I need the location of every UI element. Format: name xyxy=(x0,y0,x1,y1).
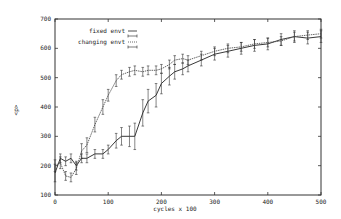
data-series xyxy=(54,29,323,182)
x-tick-label: 100 xyxy=(103,198,114,205)
legend-label-fixed: fixed envt xyxy=(89,27,126,34)
legend-errorbar-icon xyxy=(128,46,137,49)
y-tick-label: 200 xyxy=(40,162,51,169)
x-tick-label: 200 xyxy=(156,198,167,205)
x-tick-label: 400 xyxy=(262,198,273,205)
y-axis-label: <p> xyxy=(12,104,20,115)
legend: fixed envt changing envt xyxy=(78,27,137,49)
legend-errorbar-icon xyxy=(128,35,137,38)
y-tick-label: 700 xyxy=(40,15,51,22)
y-tick-label: 100 xyxy=(40,191,51,198)
series-changing-envt xyxy=(54,29,323,182)
y-tick-label: 500 xyxy=(40,74,51,81)
x-tick-label: 0 xyxy=(53,198,57,205)
x-tick-label: 300 xyxy=(209,198,220,205)
series-fixed-envt xyxy=(54,31,323,182)
y-tick-label: 600 xyxy=(40,44,51,51)
y-tick-label: 300 xyxy=(40,132,51,139)
y-tick-label: 400 xyxy=(40,103,51,110)
x-axis-ticks: 0100200300400500 xyxy=(53,19,327,205)
x-tick-label: 500 xyxy=(316,198,327,205)
legend-label-changing: changing envt xyxy=(78,38,125,46)
x-axis-label: cycles x 100 xyxy=(153,205,197,213)
line-chart: 100200300400500600700 0100200300400500 <… xyxy=(0,0,341,219)
